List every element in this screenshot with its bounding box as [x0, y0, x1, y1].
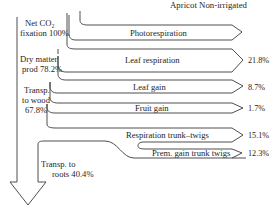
label-transp-wood-line3: 67.8%	[25, 105, 47, 115]
carbon-allocation-diagram: Apricot Non-irrigated Net CO₂ fixation 1…	[0, 0, 273, 214]
flow-label-leaf-gain: Leaf gain	[133, 82, 166, 92]
label-dry-matter-line1: Dry matter	[20, 54, 58, 64]
label-net-co2-line2: fixation 100%	[20, 28, 69, 38]
label-transp-wood-line1: Transp.	[24, 85, 50, 95]
label-dry-matter-line2: prod 78.2%	[22, 64, 62, 74]
label-transp-roots-line1: Transp. to	[41, 159, 76, 169]
flow-label-prem-gain-trunk-twigs: Prem. gain trunk twigs	[152, 148, 231, 158]
flow-label-photorespiration: Photorespiration	[130, 28, 188, 38]
label-net-co2-line1: Net CO₂	[25, 18, 55, 28]
flow-label-respiration-trunk-twigs: Respiration trunk–twigs	[126, 130, 209, 140]
flow-label-fruit-gain: Fruit gain	[135, 103, 169, 113]
value-leaf-respiration: 21.8%	[248, 56, 269, 65]
diagram-title: Apricot Non-irrigated	[170, 0, 248, 10]
label-transp-wood-line2: to wood	[22, 95, 51, 105]
value-leaf-gain: 8.7%	[248, 83, 265, 92]
value-fruit-gain: 1.7%	[248, 104, 265, 113]
value-prem-gain-trunk-twigs: 12.3%	[248, 149, 269, 158]
value-respiration-trunk-twigs: 15.1%	[248, 131, 269, 140]
flow-label-leaf-respiration: Leaf respiration	[125, 55, 180, 65]
label-transp-roots-line2: roots 40.4%	[52, 169, 94, 179]
